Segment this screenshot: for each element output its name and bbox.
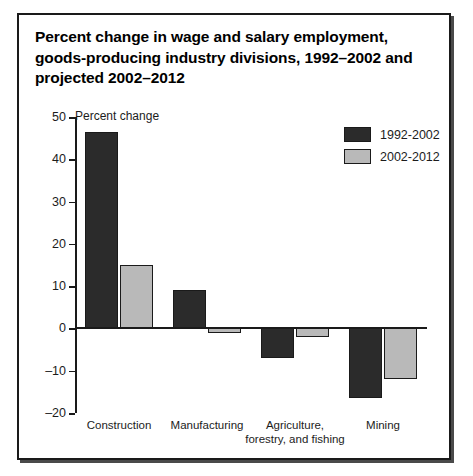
- y-tick-mark: [69, 244, 75, 246]
- legend-label: 1992-2002: [380, 128, 440, 142]
- chart-figure: Percent change in wage and salary employ…: [17, 13, 451, 460]
- bar: [384, 328, 417, 379]
- y-tick-label: 0: [59, 321, 66, 335]
- bar: [120, 265, 153, 328]
- x-category-label: Mining: [308, 419, 458, 433]
- legend-label: 2002-2012: [380, 150, 440, 164]
- bar: [173, 290, 206, 328]
- bar: [296, 328, 329, 336]
- y-tick-label: 40: [52, 152, 66, 166]
- legend-item: 1992-2002: [344, 127, 440, 142]
- y-tick-label: 20: [52, 237, 66, 251]
- bar: [349, 328, 382, 398]
- y-tick-mark: [69, 413, 75, 415]
- y-tick-label: –20: [45, 406, 66, 420]
- y-tick-label: 10: [52, 279, 66, 293]
- legend-item: 2002-2012: [344, 149, 440, 164]
- chart-title: Percent change in wage and salary employ…: [35, 27, 435, 89]
- legend-swatch-icon: [344, 127, 371, 142]
- y-tick-mark: [69, 328, 75, 330]
- legend-swatch-icon: [344, 149, 371, 164]
- y-tick-mark: [69, 202, 75, 204]
- bar: [208, 328, 241, 332]
- y-tick-mark: [69, 286, 75, 288]
- y-axis-line: [75, 117, 77, 413]
- y-tick-mark: [69, 117, 75, 119]
- bar: [261, 328, 294, 358]
- y-tick-mark: [69, 371, 75, 373]
- y-tick-mark: [69, 159, 75, 161]
- bar: [85, 132, 118, 329]
- y-tick-label: –10: [45, 364, 66, 378]
- y-tick-label: 50: [52, 110, 66, 124]
- y-tick-label: 30: [52, 195, 66, 209]
- chart-legend: 1992-2002 2002-2012: [344, 127, 440, 171]
